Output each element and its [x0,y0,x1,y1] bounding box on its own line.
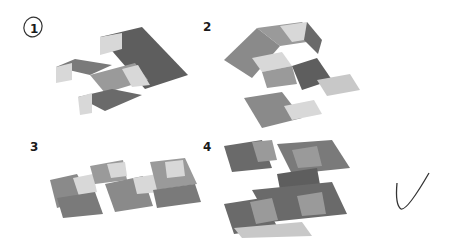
option-label-3: 3 [30,140,38,154]
circle-annotation [20,14,46,40]
cube-figure-4[interactable] [222,138,372,238]
option-label-2: 2 [203,20,211,34]
cube-figure-2[interactable] [222,18,362,130]
cube-figure-1[interactable] [50,25,190,120]
cube-figure-3[interactable] [45,158,205,220]
option-label-4: 4 [203,140,211,154]
checkmark-icon [385,165,435,215]
